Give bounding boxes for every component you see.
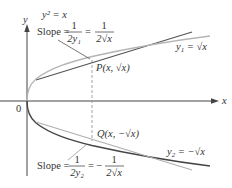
svg-text:2√x: 2√x <box>96 33 112 44</box>
svg-text:1: 1 <box>74 154 79 165</box>
svg-text:2√x: 2√x <box>106 167 122 178</box>
svg-text:1: 1 <box>111 154 116 165</box>
lower-curve-label: y2 = −√x <box>166 146 205 159</box>
y-axis-arrow-icon <box>24 24 29 32</box>
svg-text:1: 1 <box>101 20 106 31</box>
svg-text:Slope =: Slope = <box>37 26 70 37</box>
upper-curve-label: y1 = √x <box>175 41 207 54</box>
svg-text:=: = <box>85 26 91 37</box>
point-q-label: Q(x, −√x) <box>97 128 139 140</box>
svg-text:2y₁: 2y₁ <box>67 33 81 44</box>
parabola-tangent-diagram: y x 0 y² = x Slope = 1 2y₁ = 1 2√x P(x, … <box>0 0 232 188</box>
x-axis-arrow-icon <box>211 98 219 103</box>
x-axis-label: x <box>221 95 227 106</box>
upper-slope-label: Slope = 1 2y₁ = 1 2√x <box>37 20 114 44</box>
equation-label: y² = x <box>41 9 67 20</box>
svg-text:Slope =: Slope = <box>37 160 70 171</box>
origin-label: 0 <box>16 103 21 114</box>
svg-text:= −: = − <box>88 160 103 171</box>
point-p-label: P(x, √x) <box>95 62 130 74</box>
svg-text:1: 1 <box>71 20 76 31</box>
lower-slope-label: Slope = 1 2y₂ = − 1 2√x <box>37 154 124 178</box>
svg-text:2y₂: 2y₂ <box>70 167 84 178</box>
y-axis-label: y <box>22 14 28 25</box>
